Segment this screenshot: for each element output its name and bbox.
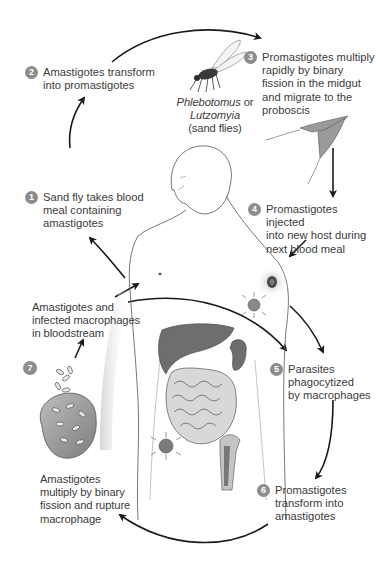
bone-icon: [220, 435, 240, 490]
bloodstream-annotation: Amastigotes and infected macrophages in …: [32, 301, 140, 341]
bloodstream-line: infected macrophages: [32, 314, 140, 327]
rupture-line: fission and rupture: [40, 499, 130, 512]
arrow-arm-to-5: [290, 306, 323, 352]
bloodstream-line: Amastigotes and: [32, 301, 140, 314]
arrow-5-to-6: [316, 400, 333, 478]
step-5: 5 Parasites phagocytized by macrophages: [270, 363, 371, 403]
step-3-line: and migrate to the: [262, 91, 375, 104]
step-4: 4 Promastigotes injected into new host d…: [248, 203, 377, 256]
spleen-icon: [230, 340, 246, 371]
step-5-line: by macrophages: [288, 389, 371, 402]
macrophage-icon: [40, 366, 96, 459]
arrow-chest-to-1: [90, 238, 125, 278]
step-2: 2 Amastigotes transform into promastigot…: [25, 66, 155, 92]
vector-genus-1: Phlebotomus: [177, 96, 241, 108]
step-4-badge: 4: [248, 203, 261, 216]
step-3-text: Promastigotes multiply rapidly by binary…: [262, 51, 375, 117]
step-3-badge: 3: [244, 51, 257, 64]
arrow-7-to-bloodstream: [75, 340, 83, 358]
step-1-line: meal containing: [43, 204, 144, 217]
step-6-line: transform into: [275, 497, 347, 510]
step-4-line: next blood meal: [266, 243, 377, 256]
step-6-text: Promastigotes transform into amastigotes: [275, 484, 347, 524]
step-2-line: into promastigotes: [43, 79, 155, 92]
step-7-badge: 7: [23, 361, 37, 375]
step-1: 1 Sand fly takes blood meal containing a…: [25, 191, 144, 231]
step-6: 6 Promastigotes transform into amastigot…: [257, 484, 347, 524]
step-3-line: fission in the midgut: [262, 77, 375, 90]
step-3: 3 Promastigotes multiply rapidly by bina…: [244, 51, 375, 117]
step-3-line: rapidly by binary: [262, 64, 375, 77]
step-1-line: Sand fly takes blood: [43, 191, 144, 204]
step-6-line: Promastigotes: [275, 484, 347, 497]
step-4-line: Promastigotes injected: [266, 203, 377, 229]
rupture-line: multiply by binary: [40, 486, 130, 499]
macrophage-cluster-icon-gut: [151, 432, 181, 460]
step-4-text: Promastigotes injected into new host dur…: [266, 203, 377, 256]
step-1-text: Sand fly takes blood meal containing ama…: [43, 191, 144, 231]
step-3-line: Promastigotes multiply: [262, 51, 375, 64]
step-5-text: Parasites phagocytized by macrophages: [288, 363, 371, 403]
step-5-line: phagocytized: [288, 376, 371, 389]
rupture-line: Amastigotes: [40, 473, 130, 486]
sand-fly-icon: [190, 40, 246, 92]
step-2-text: Amastigotes transform into promastigotes: [43, 66, 155, 92]
step-6-badge: 6: [257, 484, 270, 497]
arrow-6-to-rupture: [120, 515, 268, 542]
step-1-badge: 1: [25, 191, 38, 204]
step-2-line: Amastigotes transform: [43, 66, 155, 79]
intestine-icon: [166, 368, 236, 444]
step-3-line: proboscis: [262, 104, 375, 117]
vector-common-name: (sand flies): [172, 122, 258, 135]
bloodstream-line: in bloodstream: [32, 327, 140, 340]
arrow-1-to-2: [70, 98, 84, 148]
step-5-badge: 5: [270, 363, 283, 376]
promastigote-icon: [266, 116, 348, 184]
step-7: 7: [23, 361, 42, 375]
rupture-annotation: Amastigotes multiply by binary fission a…: [40, 473, 130, 526]
macrophage-cluster-icon-arm: [242, 292, 266, 318]
step-5-line: Parasites: [288, 363, 371, 376]
skin-lesion-icon: [256, 266, 288, 298]
liver-icon: [159, 324, 234, 374]
step-1-line: amastigotes: [43, 217, 144, 230]
rupture-line: macrophage: [40, 513, 130, 526]
step-4-line: into new host during: [266, 229, 377, 242]
step-2-badge: 2: [25, 66, 38, 79]
step-6-line: amastigotes: [275, 510, 347, 523]
